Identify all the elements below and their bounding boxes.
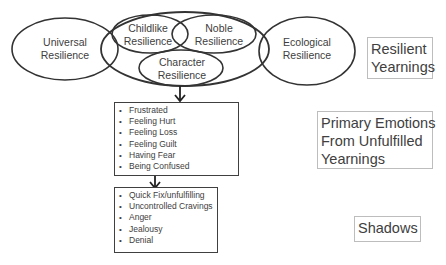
list-item: Denial — [115, 235, 217, 246]
down-arrow-icon — [175, 86, 185, 101]
label-line: Character — [148, 56, 216, 69]
list-item: Anger — [115, 212, 217, 223]
label-line: From Unfulfilled — [321, 132, 429, 150]
primary-emotions-label: Primary Emotions From Unfulfilled Yearni… — [317, 111, 433, 169]
character-resilience-label: Character Resilience — [148, 56, 216, 82]
label-line: Universal — [25, 36, 105, 49]
label-line: Resilience — [268, 49, 346, 62]
label-line: Yearnings — [321, 150, 429, 168]
list-item: Feeling Hurt — [115, 116, 238, 127]
primary-emotions-list-box: Frustrated Feeling Hurt Feeling Loss Fee… — [114, 102, 239, 176]
list-item: Quick Fix/unfulfilling — [115, 190, 217, 201]
label-line: Noble — [184, 22, 254, 35]
list-item: Having Fear — [115, 150, 238, 161]
list-item: Jealousy — [115, 224, 217, 235]
label-line: Resilience — [115, 35, 181, 48]
list-item: Uncontrolled Cravings — [115, 201, 217, 212]
list-item: Feeling Loss — [115, 127, 238, 138]
list-item: Feeling Guilt — [115, 139, 238, 150]
label-line: Shadows — [358, 219, 417, 237]
shadows-label: Shadows — [354, 216, 421, 242]
shadows-list: Quick Fix/unfulfilling Uncontrolled Crav… — [115, 190, 217, 246]
list-item: Being Confused — [115, 161, 238, 172]
list-item: Frustrated — [115, 105, 238, 116]
label-line: Resilient — [371, 40, 429, 58]
label-line: Yearnings — [371, 58, 429, 76]
label-line: Ecological — [268, 36, 346, 49]
childlike-resilience-label: Childlike Resilience — [115, 22, 181, 48]
primary-emotions-list: Frustrated Feeling Hurt Feeling Loss Fee… — [115, 105, 238, 172]
label-line: Primary Emotions — [321, 114, 429, 132]
label-line: Childlike — [115, 22, 181, 35]
label-line: Resilience — [148, 69, 216, 82]
shadows-list-box: Quick Fix/unfulfilling Uncontrolled Crav… — [114, 187, 218, 253]
universal-resilience-label: Universal Resilience — [25, 36, 105, 62]
label-line: Resilience — [25, 49, 105, 62]
ecological-resilience-label: Ecological Resilience — [268, 36, 346, 62]
noble-resilience-label: Noble Resilience — [184, 22, 254, 48]
label-line: Resilience — [184, 35, 254, 48]
resilient-yearnings-label: Resilient Yearnings — [367, 37, 433, 79]
